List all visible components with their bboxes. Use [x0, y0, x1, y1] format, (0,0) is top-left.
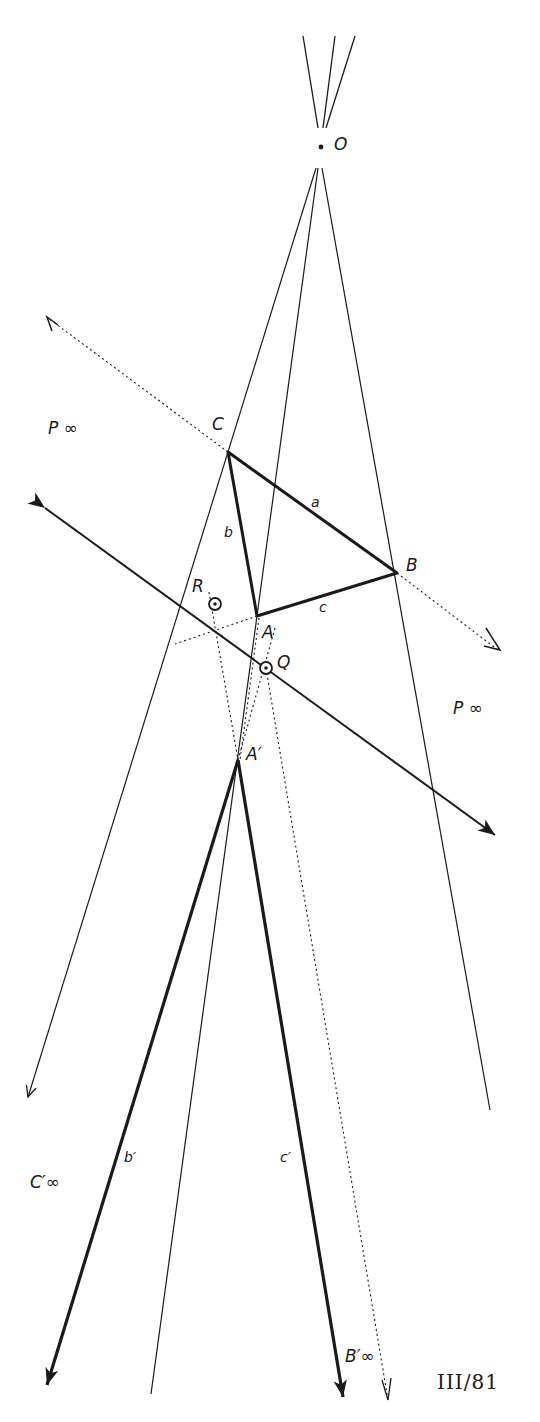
label-c: C: [212, 416, 224, 433]
construction-lines: [175, 592, 388, 1400]
arrow-head-upper-left: [47, 317, 58, 331]
arrow-head-right: [484, 628, 500, 650]
label-a-prime: A′: [246, 746, 262, 763]
diagram-canvas: O C B A R Q A′ a b c b′ c′ P ∞ P ∞ C′∞ B…: [0, 0, 540, 1422]
label-side-c: c: [319, 600, 327, 614]
label-p-infinity-left: P ∞: [48, 420, 78, 437]
label-p-infinity-right: P ∞: [453, 700, 483, 717]
triangle-abc: [228, 452, 397, 616]
projection-lines-above-o: [303, 36, 355, 128]
label-b: B: [406, 557, 418, 574]
small-tick-mark: [221, 635, 223, 637]
label-side-a: a: [311, 495, 320, 509]
point-r-marker: [209, 598, 221, 610]
point-o: [319, 145, 324, 150]
label-c-prime: c′: [280, 1150, 291, 1164]
label-b-prime-infinity: B′∞: [345, 1348, 375, 1365]
image-rays: [47, 760, 343, 1397]
label-r: R: [192, 578, 204, 595]
label-b-prime: b′: [124, 1150, 136, 1164]
figure-number: III/81: [437, 1370, 499, 1394]
label-side-b: b: [224, 525, 233, 539]
label-o: O: [334, 136, 347, 153]
label-a: A: [262, 624, 274, 641]
label-c-prime-infinity: C′∞: [30, 1174, 60, 1191]
point-q-marker: [260, 662, 272, 674]
label-q: Q: [277, 654, 290, 671]
